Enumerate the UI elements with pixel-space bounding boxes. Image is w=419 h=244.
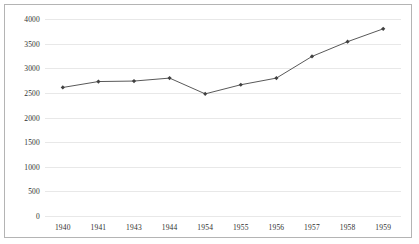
y-tick-label-2500: 2500 — [24, 88, 40, 97]
y-tick-label-4000: 4000 — [24, 15, 40, 24]
line-series — [45, 19, 401, 216]
x-tick-label-1941: 1941 — [90, 223, 106, 232]
y-tick-label-0: 0 — [36, 212, 40, 221]
data-point-1959 — [381, 27, 385, 31]
y-tick-label-1000: 1000 — [24, 162, 40, 171]
data-point-1958 — [346, 40, 350, 44]
data-point-1955 — [239, 83, 243, 87]
y-tick-label-3500: 3500 — [24, 39, 40, 48]
x-tick-label-1959: 1959 — [375, 223, 391, 232]
series-line — [63, 29, 383, 94]
x-tick-label-1944: 1944 — [162, 223, 178, 232]
x-tick-label-1940: 1940 — [55, 223, 71, 232]
gridline-0 — [45, 216, 401, 217]
y-tick-label-2000: 2000 — [24, 113, 40, 122]
x-tick-label-1943: 1943 — [126, 223, 142, 232]
plot-area: 05001000150020002500300035004000 1940194… — [45, 19, 401, 216]
y-tick-label-1500: 1500 — [24, 138, 40, 147]
x-tick-label-1958: 1958 — [340, 223, 356, 232]
x-tick-label-1954: 1954 — [197, 223, 213, 232]
y-tick-label-3000: 3000 — [24, 64, 40, 73]
data-point-1954 — [203, 92, 207, 96]
data-point-1944 — [168, 76, 172, 80]
x-tick-label-1955: 1955 — [233, 223, 249, 232]
chart-frame: 05001000150020002500300035004000 1940194… — [4, 4, 412, 238]
x-tick-label-1956: 1956 — [268, 223, 284, 232]
data-point-1941 — [96, 79, 100, 83]
x-tick-label-1957: 1957 — [304, 223, 320, 232]
y-tick-label-500: 500 — [28, 187, 40, 196]
data-point-1943 — [132, 79, 136, 83]
data-point-1940 — [61, 85, 65, 89]
